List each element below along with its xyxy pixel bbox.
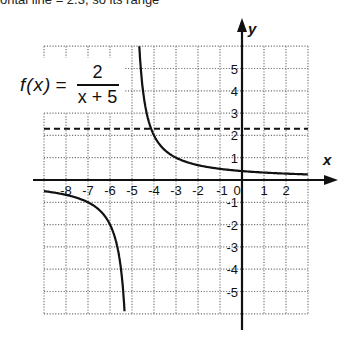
- function-formula: f(x) = 2 x + 5: [18, 58, 125, 112]
- y-tick-label: 4: [231, 84, 238, 99]
- x-tick-label: -6: [104, 183, 116, 198]
- clipped-top-text: ontal line = 2.3, so its range: [0, 0, 159, 7]
- y-tick-label: -2: [226, 218, 238, 233]
- formula-fraction: 2 x + 5: [77, 62, 119, 108]
- y-tick-label: -5: [226, 285, 238, 300]
- formula-equals: =: [55, 74, 66, 96]
- y-tick-label: -1: [226, 195, 238, 210]
- formula-numerator: 2: [93, 62, 103, 84]
- formula-denominator: x + 5: [78, 86, 118, 108]
- curve-left-branch: [44, 191, 125, 311]
- top-text-fragment: ontal line = 2.3, so its range: [0, 0, 159, 7]
- x-tick-label: 1: [260, 183, 267, 198]
- function-plot: -8-7-6-5-4-3-2-101254321-1-2-3-4-5 x y: [0, 0, 348, 338]
- x-tick-label: -5: [126, 183, 138, 198]
- x-axis-arrow-icon: [324, 175, 338, 185]
- x-tick-label: -2: [192, 183, 204, 198]
- x-tick-label: -4: [148, 183, 160, 198]
- x-tick-label: -7: [82, 183, 94, 198]
- y-tick-label: 3: [231, 106, 238, 121]
- graph-figure: ontal line = 2.3, so its range -8-7-6-5-…: [0, 0, 348, 338]
- y-axis-label: y: [247, 20, 257, 37]
- x-tick-label: -3: [170, 183, 182, 198]
- formula-lhs: f(x): [20, 74, 51, 96]
- y-tick-label: -3: [226, 240, 238, 255]
- y-axis-arrow-icon: [237, 18, 247, 32]
- x-axis-label: x: [322, 151, 332, 168]
- y-tick-label: 1: [231, 151, 238, 166]
- y-tick-label: 2: [231, 128, 238, 143]
- y-tick-label: -4: [226, 262, 238, 277]
- x-tick-label: 2: [282, 183, 289, 198]
- curve-right-branch: [139, 46, 307, 174]
- y-tick-label: 5: [231, 62, 238, 77]
